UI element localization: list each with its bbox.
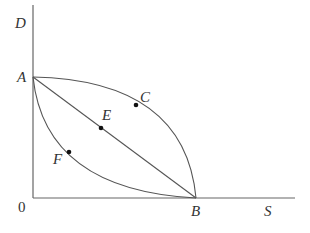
point-f-label: F [53, 152, 62, 167]
point-c-label: C [140, 90, 150, 105]
x-axis-label: S [264, 204, 272, 219]
point-e-dot [99, 126, 104, 131]
diagram-canvas [0, 0, 310, 233]
point-f-dot [67, 150, 72, 155]
point-b-label: B [191, 204, 200, 219]
y-axis-label: D [15, 16, 26, 31]
point-c-dot [134, 103, 139, 108]
straight-line-aeb [33, 77, 196, 198]
origin-label: 0 [18, 200, 26, 215]
point-e-label: E [102, 108, 111, 123]
point-a-label: A [17, 70, 26, 85]
